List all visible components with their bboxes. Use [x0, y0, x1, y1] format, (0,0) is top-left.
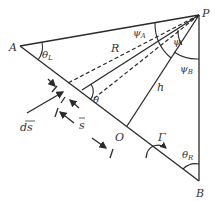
- label-R: R: [110, 42, 119, 55]
- label-O: O: [115, 131, 124, 144]
- gamma-arrow-tail: [146, 153, 147, 158]
- label-s: s: [79, 119, 85, 132]
- label-psi-B: ψB: [180, 63, 193, 76]
- label-theta: θ: [93, 94, 99, 105]
- label-Gamma: Γ: [157, 131, 166, 144]
- diagram-canvas: A P B O θL θR θ ψA ψ ψB R h Γ ds s: [0, 0, 217, 201]
- tick-s-left: [55, 108, 58, 117]
- arc-psi-A: [155, 23, 171, 58]
- label-ds: ds: [20, 121, 33, 134]
- label-theta-L: θL: [42, 49, 53, 62]
- tick-s-right: [110, 149, 113, 158]
- label-theta-R: θR: [182, 149, 194, 162]
- tick-ds-lower: [61, 97, 65, 103]
- arrow-ds-up-icon: [70, 100, 79, 108]
- label-psi-A: ψA: [133, 27, 146, 40]
- arc-psi-B: [174, 52, 199, 59]
- label-h: h: [157, 81, 164, 94]
- label-psi: ψ: [173, 36, 181, 47]
- label-A: A: [8, 41, 17, 54]
- dashed-line-lower: [92, 15, 199, 100]
- arrow-s-left-icon: [60, 112, 74, 123]
- tick-ds-upper: [52, 86, 57, 92]
- label-P: P: [201, 7, 210, 20]
- arc-theta-R: [183, 164, 199, 169]
- arrow-s-right-icon: [92, 138, 106, 148]
- arrow-ds-down-icon: [48, 79, 55, 86]
- line-AB: [20, 46, 199, 181]
- label-B: B: [195, 187, 204, 200]
